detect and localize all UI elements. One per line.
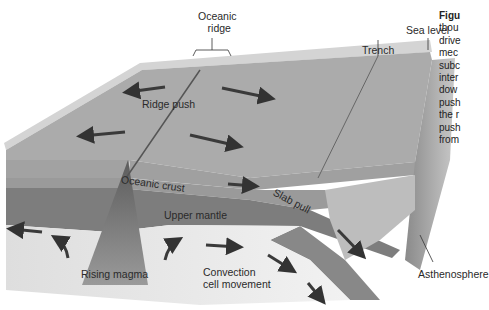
plate-tectonics-block-diagram xyxy=(0,0,489,310)
convection-label: Convection cell movement xyxy=(203,266,271,290)
caption-line: push xyxy=(439,97,489,109)
caption-line: Figu xyxy=(439,10,489,22)
asthenosphere-label: Asthenosphere xyxy=(418,268,489,280)
figure-caption: Figu thou drive mec subc inter dow push … xyxy=(439,10,489,146)
caption-line: dow xyxy=(439,84,489,96)
rising-magma-label: Rising magma xyxy=(81,268,148,280)
caption-line: from xyxy=(439,134,489,146)
trench-label: Trench xyxy=(362,44,394,56)
caption-line: mec xyxy=(439,47,489,59)
caption-line: inter xyxy=(439,72,489,84)
caption-line: thou xyxy=(439,22,489,34)
caption-line: drive xyxy=(439,35,489,47)
upper-mantle-label: Upper mantle xyxy=(164,209,227,221)
seafloor-surface xyxy=(6,52,432,178)
caption-line: push xyxy=(439,122,489,134)
left-plate-front xyxy=(6,160,130,178)
ridge-push-label: Ridge push xyxy=(142,98,195,110)
caption-line: subc xyxy=(439,60,489,72)
ridge-bracket xyxy=(193,50,231,56)
crust-flow-arrow-icon xyxy=(228,184,254,186)
convection-arrow1-icon xyxy=(206,245,238,247)
oceanic-ridge-label: Oceanic ridge xyxy=(198,10,237,34)
caption-line: the r xyxy=(439,109,489,121)
